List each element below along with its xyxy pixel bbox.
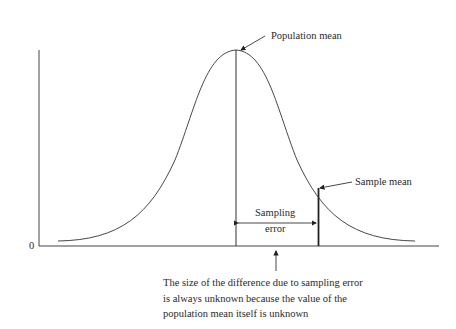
caption-line: population mean itself is unknown bbox=[163, 306, 363, 322]
caption-line: is always unknown because the value of t… bbox=[163, 291, 363, 307]
caption-line: The size of the difference due to sampli… bbox=[163, 275, 363, 291]
population-mean-arrow bbox=[241, 36, 265, 50]
sample-mean-label: Sample mean bbox=[355, 177, 412, 188]
sample-mean-arrow bbox=[320, 182, 352, 188]
sampling-label: Sampling bbox=[255, 208, 295, 219]
caption: The size of the difference due to sampli… bbox=[163, 275, 363, 322]
error-label: error bbox=[265, 224, 285, 235]
zero-label: 0 bbox=[29, 241, 34, 252]
population-mean-label: Population mean bbox=[271, 31, 342, 42]
